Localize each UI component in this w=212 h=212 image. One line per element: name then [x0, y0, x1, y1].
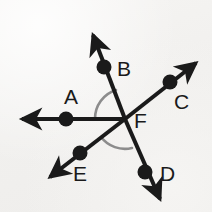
point-label-c: C — [174, 91, 189, 112]
point-label-a: A — [64, 86, 78, 107]
point-label-e: E — [73, 163, 87, 184]
angle-arc-AFB — [95, 90, 116, 119]
point-label-d: D — [160, 163, 175, 184]
point-dot-A — [59, 112, 74, 127]
point-dot-C — [163, 75, 178, 90]
geometry-figure: A B C D E F — [0, 0, 212, 212]
point-label-f: F — [134, 110, 147, 131]
angle-arc-EFD — [101, 137, 132, 149]
point-dot-B — [97, 60, 112, 75]
point-label-b: B — [117, 58, 131, 79]
point-dot-D — [138, 165, 153, 180]
point-dot-E — [73, 146, 88, 161]
